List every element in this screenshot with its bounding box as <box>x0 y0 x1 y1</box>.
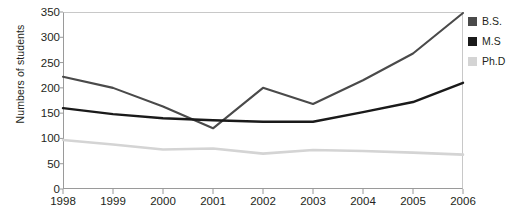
y-axis-tick-labels: 050100150200250300350 <box>24 12 60 189</box>
x-axis-tick-label: 2006 <box>450 195 476 207</box>
chart-legend: B.S.M.SPh.D <box>468 12 519 72</box>
x-axis-tick-label: 2003 <box>300 195 326 207</box>
y-axis-tick-label: 300 <box>24 31 60 43</box>
y-axis-tick-label: 150 <box>24 107 60 119</box>
x-axis-tick-label: 1998 <box>50 195 76 207</box>
x-axis-tick-label: 1999 <box>100 195 126 207</box>
legend-swatch-icon <box>468 57 477 66</box>
legend-item-label: Ph.D <box>482 55 505 67</box>
x-axis-tick-label: 2005 <box>400 195 426 207</box>
x-axis-tick-label: 2000 <box>150 195 176 207</box>
legend-item-label: M.S <box>482 35 501 47</box>
legend-item[interactable]: B.S. <box>468 12 519 30</box>
y-axis-tick-label: 250 <box>24 57 60 69</box>
y-axis-tick-label: 50 <box>24 158 60 170</box>
legend-item-label: B.S. <box>482 15 502 27</box>
y-axis-tick-label: 200 <box>24 82 60 94</box>
x-axis-tick-label: 2002 <box>250 195 276 207</box>
y-axis-tick-label: 0 <box>24 183 60 195</box>
x-axis-tick-labels: 199819992000200120022003200420052006 <box>63 195 463 215</box>
y-axis-tick-label: 100 <box>24 132 60 144</box>
legend-swatch-icon <box>468 37 477 46</box>
legend-item[interactable]: M.S <box>468 32 519 50</box>
legend-swatch-icon <box>468 17 477 26</box>
x-axis-tick-label: 2001 <box>200 195 226 207</box>
x-axis-tick-label: 2004 <box>350 195 376 207</box>
legend-item[interactable]: Ph.D <box>468 52 519 70</box>
chart-figure: Numbers of students 05010015020025030035… <box>0 0 519 221</box>
plot-area <box>63 12 463 189</box>
y-axis-tick-label: 350 <box>24 6 60 18</box>
